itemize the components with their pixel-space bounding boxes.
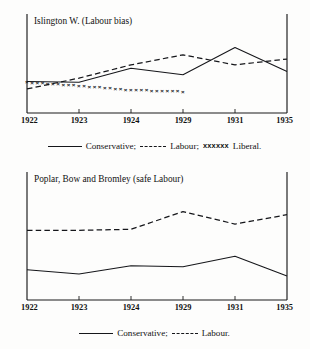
series-liberal-marker: × (119, 85, 123, 92)
x-axis-label: 1922 (21, 116, 38, 125)
legend-conservative-label: Conservative; (116, 328, 169, 338)
series-liberal-marker: × (25, 78, 29, 85)
series-conservative-line (27, 47, 287, 82)
series-liberal-marker: × (139, 86, 143, 93)
x-axis-label: 1923 (71, 303, 88, 312)
series-liberal-marker: × (176, 87, 180, 94)
series-liberal-marker: × (129, 86, 133, 93)
legend-conservative-label: Conservative; (85, 141, 138, 151)
x-axis-label: 1935 (276, 116, 293, 125)
series-liberal-marker: × (108, 84, 112, 91)
series-liberal-marker: × (145, 86, 149, 93)
series-liberal-marker: × (165, 87, 169, 94)
x-axis-label: 1929 (175, 116, 192, 125)
series-liberal-marker: × (51, 80, 55, 87)
x-axis-label: 1923 (71, 116, 88, 125)
legend-cross-marker-icon: xxxxxx (203, 141, 229, 150)
series-liberal-marker: × (41, 79, 45, 86)
legend-islington: Conservative; Labour; xxxxxx Liberal. (0, 138, 310, 151)
legend-dashed-line-icon (172, 333, 198, 334)
series-liberal-marker: × (30, 79, 34, 86)
legend-dashed-line-icon (140, 146, 166, 147)
x-axis-label: 1924 (123, 116, 141, 125)
series-liberal-marker: × (171, 87, 175, 94)
series-conservative-line (27, 256, 287, 276)
series-liberal-marker: × (98, 83, 102, 90)
legend-solid-line-icon (48, 146, 82, 147)
chart-title: Poplar, Bow and Bromley (safe Labour) (34, 174, 183, 185)
legend-solid-line-icon (79, 333, 113, 334)
legend-labour-label: Labour. (201, 328, 231, 338)
series-liberal-marker: × (61, 81, 65, 88)
x-axis-label: 1931 (227, 303, 244, 312)
series-liberal-marker: × (150, 87, 154, 94)
x-axis-label: 1924 (123, 303, 141, 312)
chart-title: Islington W. (Labour bias) (34, 16, 132, 27)
series-liberal-marker: × (46, 80, 50, 87)
series-liberal-marker: × (72, 81, 76, 88)
series-liberal-marker: × (134, 86, 138, 93)
poplar-chart-svg: Poplar, Bow and Bromley (safe Labour)192… (0, 162, 310, 314)
legend-labour-label: Labour; (169, 141, 200, 151)
series-liberal-marker: × (82, 82, 86, 89)
islington-chart-svg: Islington W. (Labour bias)××××××××××××××… (0, 0, 310, 136)
x-axis-label: 1929 (175, 303, 192, 312)
series-liberal-marker: × (103, 84, 107, 91)
series-liberal-marker: × (93, 83, 97, 90)
series-liberal-marker: × (124, 86, 128, 93)
series-liberal-marker: × (67, 81, 71, 88)
series-labour-line (27, 212, 287, 231)
x-axis-label: 1922 (21, 303, 38, 312)
series-liberal-marker: × (113, 85, 117, 92)
series-liberal-marker: × (155, 87, 159, 94)
chart-poplar-bow-bromley: Poplar, Bow and Bromley (safe Labour)192… (0, 162, 310, 349)
x-axis-label: 1931 (227, 116, 244, 125)
figure-page: Islington W. (Labour bias)××××××××××××××… (0, 0, 310, 349)
series-liberal-marker: × (77, 82, 81, 89)
legend-poplar: Conservative; Labour. (0, 325, 310, 338)
series-liberal-marker: × (181, 88, 185, 95)
series-liberal-marker: × (56, 80, 60, 87)
legend-liberal-label: Liberal. (232, 141, 263, 151)
series-liberal-marker: × (87, 83, 91, 90)
series-liberal-marker: × (160, 87, 164, 94)
series-liberal-marker: × (35, 79, 39, 86)
x-axis-label: 1935 (276, 303, 293, 312)
